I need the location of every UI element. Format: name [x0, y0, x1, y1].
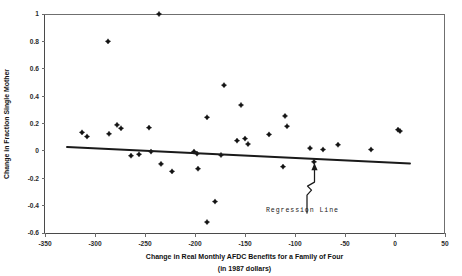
- y-axis-title: Change in Fraction Single Mother: [3, 69, 11, 179]
- y-tick-label: 0.2: [30, 120, 39, 127]
- data-point: [195, 166, 200, 171]
- data-point: [242, 136, 247, 141]
- data-point: [204, 115, 209, 120]
- data-point: [169, 169, 174, 174]
- data-point: [84, 134, 89, 139]
- data-point: [79, 130, 84, 135]
- scatter-chart: 10.80.60.40.20-0.2-0.4-0.6 -350-300-250-…: [0, 0, 462, 276]
- data-point: [158, 161, 163, 166]
- data-point: [307, 146, 312, 151]
- y-tick-label: -0.6: [28, 229, 40, 236]
- regression-line-label: Regression Line: [266, 207, 339, 214]
- x-axis-subtitle: (in 1987 dollars): [218, 265, 271, 273]
- data-point: [284, 124, 289, 129]
- x-tick-label: -350: [38, 240, 52, 247]
- data-point: [118, 126, 123, 131]
- data-point: [106, 131, 111, 136]
- x-tick-label: 0: [393, 240, 397, 247]
- x-tick-label: 50: [441, 240, 449, 247]
- plot-border: [45, 15, 445, 234]
- data-point: [204, 219, 209, 224]
- data-point: [238, 102, 243, 107]
- y-tick-label: -0.4: [28, 202, 40, 209]
- data-points: [79, 11, 402, 224]
- x-axis-ticks: -350-300-250-200-150-100-50050: [38, 233, 449, 247]
- y-tick-label: 0.8: [30, 38, 39, 45]
- x-tick-label: -300: [88, 240, 102, 247]
- x-tick-label: -250: [138, 240, 152, 247]
- x-tick-label: -100: [288, 240, 302, 247]
- data-point: [320, 147, 325, 152]
- x-tick-label: -50: [340, 240, 350, 247]
- y-tick-label: 0: [35, 147, 39, 154]
- chart-canvas: 10.80.60.40.20-0.2-0.4-0.6 -350-300-250-…: [0, 0, 462, 276]
- data-point: [245, 141, 250, 146]
- data-point: [266, 132, 271, 137]
- data-point: [282, 113, 287, 118]
- x-axis-title: Change in Real Monthly AFDC Benefits for…: [146, 253, 344, 261]
- y-tick-label: 1: [35, 10, 39, 17]
- regression-line-callout: [307, 163, 318, 213]
- data-point: [335, 142, 340, 147]
- data-point: [280, 164, 285, 169]
- y-tick-label: 0.4: [30, 93, 39, 100]
- data-point: [212, 199, 217, 204]
- x-tick-label: -150: [238, 240, 252, 247]
- data-point: [221, 83, 226, 88]
- x-tick-label: -200: [188, 240, 202, 247]
- data-point: [136, 152, 141, 157]
- data-point: [368, 147, 373, 152]
- callout-arrow-head: [311, 163, 317, 170]
- y-tick-label: -0.2: [28, 175, 40, 182]
- regression-line: [67, 147, 410, 163]
- data-point: [311, 159, 316, 164]
- y-tick-label: 0.6: [30, 65, 39, 72]
- data-point: [105, 39, 110, 44]
- y-axis-ticks: 10.80.60.40.20-0.2-0.4-0.6: [28, 10, 45, 236]
- data-point: [146, 125, 151, 130]
- data-point: [128, 153, 133, 158]
- data-point: [114, 122, 119, 127]
- axis-frame: [45, 14, 445, 234]
- data-point: [234, 138, 239, 143]
- data-point: [156, 11, 161, 16]
